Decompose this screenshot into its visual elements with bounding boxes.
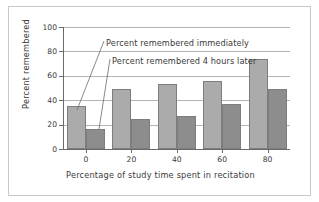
y-axis-tick-label: 80 [31,47,57,56]
bar-series-2-category-20 [131,119,150,150]
bar-series-2-category-0 [86,129,105,149]
bar-series-2-category-60 [222,104,241,149]
x-axis-tick-mark [268,149,269,153]
annotation-series-2: Percent remembered 4 hours later [112,56,256,66]
bar-series-1-category-40 [158,84,177,149]
y-axis-tick-label: 40 [31,96,57,105]
y-axis-title: Percent remembered [21,9,31,119]
y-axis-tick-label: 20 [31,120,57,129]
x-axis-tick-label: 60 [202,155,242,164]
x-axis-tick-label: 0 [66,155,106,164]
y-axis-tick-label: 100 [31,23,57,32]
x-axis-tick-mark [177,149,178,153]
annotation-series-1: Percent remembered immediately [106,38,249,48]
bar-series-1-category-80 [249,59,268,149]
x-axis-tick-label: 80 [248,155,288,164]
bar-series-1-category-20 [112,89,131,149]
chart-frame: Percent remembered 020406080100 02040608… [8,6,311,196]
x-axis-tick-mark [86,149,87,153]
bar-series-2-category-40 [177,116,196,149]
bar-series-1-category-60 [203,81,222,149]
x-axis-tick-mark [222,149,223,153]
bar-series-2-category-80 [268,89,287,149]
x-axis-tick-label: 20 [111,155,151,164]
x-axis-tick-mark [131,149,132,153]
x-axis-tick-label: 40 [157,155,197,164]
y-axis-tick-label: 60 [31,71,57,80]
bar-series-1-category-0 [67,106,86,149]
x-axis-title: Percentage of study time spent in recita… [9,170,312,180]
y-axis-tick-label: 0 [31,145,57,154]
chart-container: Percent remembered 020406080100 02040608… [9,7,312,197]
